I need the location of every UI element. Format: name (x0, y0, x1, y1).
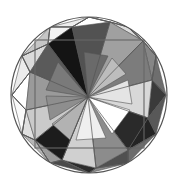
geometric-mosaic-figure (0, 0, 177, 180)
figure-container: Tessellated Circle Mosaic (0, 0, 177, 180)
